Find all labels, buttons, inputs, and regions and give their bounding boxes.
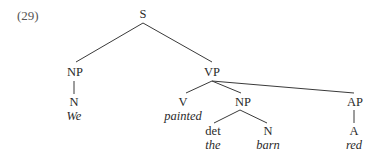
- node-v: V: [178, 95, 187, 109]
- node-s: S: [140, 7, 147, 21]
- edge-s-vp: [143, 23, 212, 62]
- node-ap: AP: [347, 95, 363, 109]
- edge-np-det: [214, 110, 240, 123]
- word-red: red: [346, 138, 362, 152]
- edge-vp-v: [186, 81, 212, 93]
- edge-vp-ap: [212, 81, 354, 93]
- node-vp: VP: [204, 65, 220, 79]
- node-n-subject: N: [69, 95, 78, 109]
- node-det: det: [205, 124, 220, 138]
- node-np-object: NP: [235, 95, 251, 109]
- word-we: We: [67, 109, 82, 123]
- node-n-object: N: [263, 124, 272, 138]
- node-a: A: [349, 124, 358, 138]
- edge-s-np: [76, 23, 143, 62]
- word-barn: barn: [256, 138, 280, 152]
- word-the: the: [205, 138, 220, 152]
- node-np-subject: NP: [67, 65, 83, 79]
- tree-edges: [0, 0, 382, 158]
- edge-np-n-object: [240, 110, 267, 123]
- word-painted: painted: [164, 109, 202, 123]
